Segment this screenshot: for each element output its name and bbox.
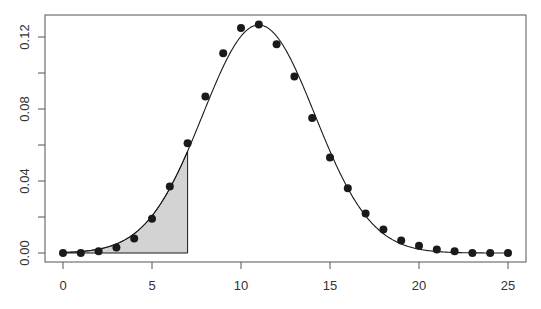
data-point: [379, 226, 387, 234]
data-point: [95, 247, 103, 255]
y-tick-label: 0.00: [17, 240, 32, 265]
y-tick-label: 0.12: [17, 24, 32, 49]
data-point: [166, 182, 174, 190]
data-point: [415, 242, 423, 250]
data-point: [201, 92, 209, 100]
plot-frame: [45, 15, 526, 262]
data-point: [59, 249, 67, 257]
data-point: [130, 235, 138, 243]
data-points: [59, 20, 512, 257]
data-point: [184, 139, 192, 147]
x-tick-label: 20: [412, 278, 426, 293]
data-point: [433, 245, 441, 253]
data-point: [255, 20, 263, 28]
data-point: [112, 244, 120, 252]
data-point: [77, 249, 85, 257]
data-point: [273, 40, 281, 48]
data-point: [290, 73, 298, 81]
x-tick-label: 5: [148, 278, 155, 293]
data-point: [397, 236, 405, 244]
shaded-area-path: [63, 151, 188, 253]
x-axis: 0510152025: [59, 262, 515, 293]
data-point: [308, 114, 316, 122]
data-point: [468, 249, 476, 257]
y-tick-label: 0.04: [17, 168, 32, 193]
x-tick-label: 10: [234, 278, 248, 293]
x-tick-label: 0: [59, 278, 66, 293]
data-point: [486, 249, 494, 257]
data-point: [451, 247, 459, 255]
shaded-area: [63, 151, 188, 253]
data-point: [504, 249, 512, 257]
data-point: [219, 49, 227, 57]
data-point: [362, 209, 370, 217]
x-tick-label: 15: [323, 278, 337, 293]
x-tick-label: 25: [501, 278, 515, 293]
data-point: [237, 24, 245, 32]
data-point: [344, 184, 352, 192]
normal-curve: [63, 25, 508, 253]
y-axis: 0.000.040.080.12: [17, 24, 45, 265]
y-tick-label: 0.08: [17, 96, 32, 121]
data-point: [326, 154, 334, 162]
data-point: [148, 215, 156, 223]
curve-path: [63, 25, 508, 253]
chart: 0510152025 0.000.040.080.12: [0, 0, 541, 309]
